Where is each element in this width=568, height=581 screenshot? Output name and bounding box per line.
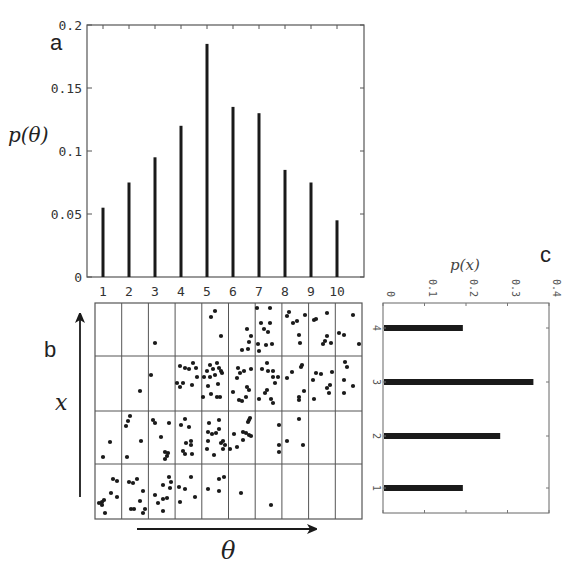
sample-dot [163,457,167,461]
sample-dot [209,315,213,319]
sample-dot [257,397,261,401]
sample-dot [255,306,259,310]
sample-dot [135,477,139,481]
sample-dot [231,390,235,394]
sample-dot [260,367,264,371]
sample-dot [240,399,244,403]
bar-theta-4 [180,126,183,277]
sample-dot [213,373,217,377]
sample-dot [269,503,273,507]
x-tick-label: 0.4 [551,279,562,297]
x-tick-label: 6 [229,284,237,299]
sample-dot [131,481,135,485]
sample-dot [217,489,221,493]
sample-dot [337,331,341,335]
sample-dot [264,343,268,347]
sample-dot [190,383,194,387]
sample-dot [301,443,305,447]
bar-x-3 [384,379,533,385]
sample-dot [181,381,185,385]
sample-dot [194,366,198,370]
sample-dot [314,317,318,321]
sample-dot [277,423,281,427]
y-tick-label: 0.2 [59,18,82,33]
sample-dot [126,419,130,423]
sample-dot [266,330,270,334]
y-tick-label: 2 [371,433,382,439]
sample-dot [220,371,224,375]
sample-dot [161,483,165,487]
sample-dot [290,370,294,374]
sample-dot [242,369,246,373]
sample-dot [223,443,227,447]
sample-dot [221,439,225,443]
sample-dot [153,341,157,345]
sample-dot [321,342,325,346]
sample-dot [153,493,157,497]
sample-dot [245,327,249,331]
sample-dot [328,383,332,387]
x-axis-label-p-x: p(x) [450,256,480,274]
sample-dot [330,370,334,374]
sample-dot [183,417,187,421]
sample-dot [195,375,199,379]
sample-dot [178,385,182,389]
sample-dot [277,450,281,454]
sample-dot [241,438,245,442]
sample-dot [143,507,147,511]
sample-dot [325,311,329,315]
sample-dot [249,334,253,338]
sample-dot [202,375,206,379]
bar-x-4 [384,325,463,331]
bar-theta-10 [336,220,339,277]
sample-dot [215,361,219,365]
sample-dot [205,369,209,373]
sample-dot [209,392,213,396]
sample-dot [271,375,275,379]
bar-x-2 [384,433,500,439]
y-axis-label-p-theta: p(θ) [8,123,48,147]
sample-dot [201,395,205,399]
sample-dot [240,348,244,352]
panel-a-letter: a [50,30,63,55]
sample-dot [193,495,197,499]
sample-dot [205,447,209,451]
sample-dot [208,375,212,379]
x-tick-label: 7 [255,284,263,299]
panel-b-letter: b [44,337,56,362]
sample-dot [206,384,210,388]
x-tick-label: 1 [99,284,107,299]
sample-dot [249,434,253,438]
sample-dot [262,327,266,331]
sample-dot [187,367,191,371]
sample-dot [217,418,221,422]
sample-dot [314,371,318,375]
sample-dot [216,382,220,386]
sample-dot [206,439,210,443]
bar-theta-7 [258,113,261,277]
x-tick-label: 0.2 [468,279,479,297]
sample-dot [285,376,289,380]
sample-dot [161,509,165,513]
bar-theta-2 [128,183,131,278]
panel-b: b x θ [44,303,362,565]
sample-dot [210,432,214,436]
sample-dot [246,347,250,351]
sample-dot [183,452,187,456]
sample-dot [357,342,361,346]
sample-dot [256,342,260,346]
sample-dot [179,423,183,427]
sample-dot [169,480,173,484]
sample-dot [127,480,131,484]
sample-dot [285,314,289,318]
y-tick-label: 0.15 [51,81,82,96]
sample-dot [266,369,270,373]
sample-dot [325,334,329,338]
y-tick-label: 0 [74,270,82,285]
sample-dot [342,391,346,395]
x-tick-label: 3 [151,284,159,299]
x-tick-label: 10 [329,284,345,299]
x-tick-label: 4 [177,284,185,299]
sample-dot [221,447,225,451]
sample-dot [189,443,193,447]
